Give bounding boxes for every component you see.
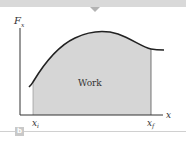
panel-label-badge: b [15,127,24,136]
x-final-label: xf [147,118,156,130]
work-label: Work [78,78,102,88]
x-initial-label: xi [32,118,39,129]
work-area-fill [33,32,151,115]
x-axis-label: x [166,110,171,120]
y-axis-label: Fx [13,15,25,28]
panel-divider-line [0,131,186,132]
work-area-diagram: Fx x Work xi xf [0,0,186,150]
